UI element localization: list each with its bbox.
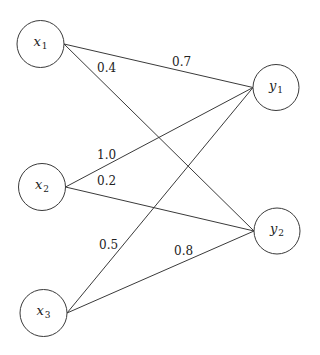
edge-x3-y2 <box>67 231 254 313</box>
edge-weight-x2-y1: 1.0 <box>97 148 116 162</box>
edge-x1-y1 <box>64 44 253 88</box>
edge-weight-x3-y2: 0.8 <box>174 244 193 258</box>
node-x3: x3 <box>20 290 67 337</box>
edge-weight-x3-y1: 0.5 <box>99 238 118 252</box>
edge-weight-x2-y2: 0.2 <box>97 174 116 188</box>
edge-x2-y2 <box>66 187 255 231</box>
node-x2: x2 <box>19 164 66 211</box>
node-x1: x1 <box>17 21 64 68</box>
edge-x3-y1 <box>67 88 253 314</box>
edge-weight-x1-y1: 0.7 <box>172 55 191 69</box>
node-y2: y2 <box>254 208 300 254</box>
network-diagram: x1x2x3y1y2 0.70.41.00.20.50.8 <box>0 0 320 355</box>
edges <box>64 44 254 313</box>
edge-weight-x1-y2: 0.4 <box>97 61 116 75</box>
node-y1: y1 <box>253 65 299 111</box>
edge-x2-y1 <box>66 88 254 188</box>
nodes: x1x2x3y1y2 <box>17 21 300 337</box>
